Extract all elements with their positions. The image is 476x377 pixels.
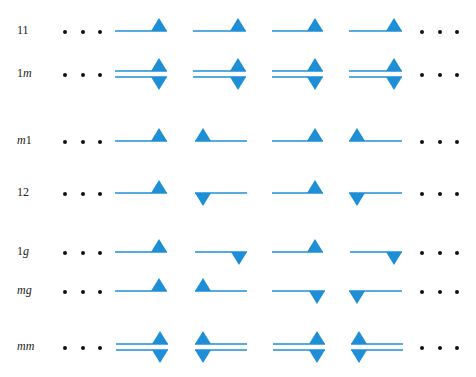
ellipsis-left-icon: [63, 73, 103, 77]
dot-icon: [420, 251, 424, 255]
triangle-up-icon: [195, 331, 211, 344]
triangle-down-icon: [195, 193, 211, 206]
dot-icon: [63, 192, 67, 196]
row-label-1m: 1m: [17, 66, 32, 80]
dot-icon: [98, 140, 102, 144]
triangle-up-icon: [307, 239, 323, 252]
dot-icon: [81, 346, 85, 350]
ellipsis-right-icon: [420, 192, 460, 196]
motif: [350, 252, 402, 265]
triangle-up-icon: [151, 58, 167, 71]
triangle-up-icon: [151, 239, 167, 252]
dot-icon: [455, 30, 459, 34]
triangle-up-icon: [307, 58, 323, 71]
dot-icon: [455, 73, 459, 77]
dot-icon: [81, 73, 85, 77]
label-part: g: [23, 244, 29, 258]
motif: [115, 239, 167, 252]
triangle-up-icon: [151, 180, 167, 193]
ellipsis-left-icon: [63, 290, 103, 294]
motif-row-mm: [116, 331, 403, 363]
dot-icon: [420, 346, 424, 350]
label-part: 1: [26, 133, 32, 147]
dot-icon: [438, 290, 442, 294]
dot-icon: [438, 346, 442, 350]
dot-icon: [63, 140, 67, 144]
motif: [193, 58, 246, 90]
dot-icon: [455, 192, 459, 196]
motif: [195, 252, 247, 265]
motif: [115, 128, 167, 141]
row-label-12: 12: [17, 185, 29, 199]
frieze-groups-diagram: 111mm1121gmgmm: [0, 0, 476, 377]
triangle-down-icon: [351, 350, 367, 363]
row-label-mg: mg: [17, 283, 32, 297]
motif: [351, 331, 403, 363]
dot-icon: [63, 290, 67, 294]
triangle-down-icon: [230, 77, 246, 90]
dot-icon: [438, 192, 442, 196]
label-part: m: [23, 66, 32, 80]
dot-icon: [63, 30, 67, 34]
triangle-up-icon: [151, 278, 167, 291]
triangle-up-icon: [230, 58, 246, 71]
triangle-up-icon: [386, 18, 402, 31]
triangle-up-icon: [151, 128, 167, 141]
ellipsis-right-icon: [420, 290, 460, 294]
dot-icon: [98, 73, 102, 77]
ellipsis-right-icon: [420, 346, 460, 350]
motif: [272, 291, 325, 304]
triangle-down-icon: [195, 350, 211, 363]
motif-layer: [0, 0, 476, 377]
dot-icon: [420, 192, 424, 196]
motif: [349, 193, 402, 206]
label-part: mg: [17, 283, 32, 297]
triangle-up-icon: [195, 128, 211, 141]
triangle-up-icon: [230, 18, 246, 31]
motif: [195, 128, 247, 141]
triangle-up-icon: [309, 331, 325, 344]
triangle-up-icon: [307, 128, 323, 141]
triangle-down-icon: [151, 77, 167, 90]
dot-icon: [98, 346, 102, 350]
motif: [193, 18, 246, 31]
motif: [195, 331, 247, 363]
ellipsis-right-icon: [420, 30, 460, 34]
motif: [349, 291, 402, 304]
motif: [272, 239, 323, 252]
motif: [272, 58, 323, 90]
dot-icon: [98, 192, 102, 196]
motif: [116, 331, 168, 363]
motif-row-m1: [115, 128, 402, 141]
dot-icon: [420, 30, 424, 34]
ellipsis-left-icon: [63, 251, 103, 255]
dot-icon: [455, 346, 459, 350]
dot-icon: [81, 290, 85, 294]
triangle-down-icon: [386, 77, 402, 90]
triangle-up-icon: [307, 180, 323, 193]
motif: [115, 58, 167, 90]
motif: [272, 180, 323, 193]
motif-row-12: [115, 180, 402, 206]
motif: [195, 193, 247, 206]
triangle-down-icon: [309, 350, 325, 363]
triangle-up-icon: [307, 18, 323, 31]
motif: [115, 180, 167, 193]
dot-icon: [438, 251, 442, 255]
motif: [273, 331, 325, 363]
dot-icon: [420, 290, 424, 294]
triangle-down-icon: [231, 252, 247, 265]
dot-icon: [438, 30, 442, 34]
ellipsis-left-icon: [63, 346, 103, 350]
motif: [272, 18, 323, 31]
triangle-down-icon: [307, 77, 323, 90]
motif-row-1g: [115, 239, 402, 265]
triangle-down-icon: [349, 291, 365, 304]
dot-icon: [81, 192, 85, 196]
row-label-1g: 1g: [17, 244, 29, 258]
triangle-down-icon: [386, 252, 402, 265]
dot-icon: [420, 140, 424, 144]
triangle-up-icon: [349, 128, 365, 141]
dot-icon: [63, 73, 67, 77]
motif: [349, 128, 402, 141]
